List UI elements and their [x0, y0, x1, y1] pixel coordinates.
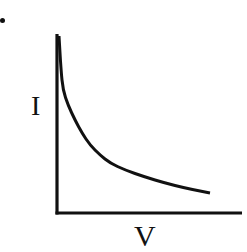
iv-curve — [59, 36, 210, 193]
y-axis-label: I — [31, 92, 40, 120]
iv-chart — [0, 0, 247, 252]
x-axis-label: V — [134, 221, 156, 251]
